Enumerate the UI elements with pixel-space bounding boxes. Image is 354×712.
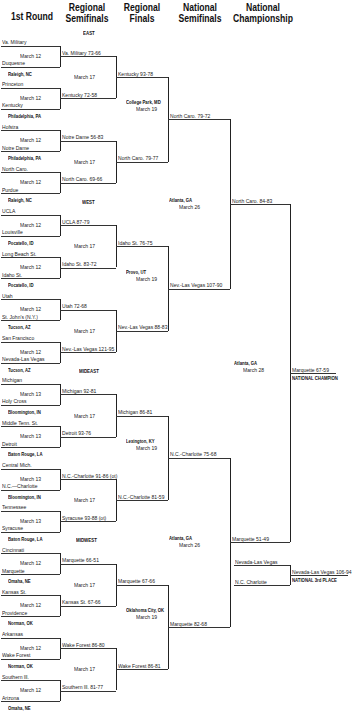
game-location: Bloomington, IN [8, 409, 41, 415]
bracket-line [290, 373, 336, 374]
game-date: March 19 [136, 106, 157, 112]
game-date: March 26 [179, 204, 200, 210]
game-location: Philadelphia, PA [8, 113, 41, 119]
bracket-line [60, 394, 116, 395]
bracket-line [116, 585, 168, 586]
regional-final-location: Lexington, KY [126, 438, 155, 444]
game-location: Omaha, NE [8, 705, 31, 711]
game-date: March 12 [20, 602, 41, 608]
bracket-line [116, 416, 168, 417]
game-location: Tucson, AZ [8, 367, 31, 373]
bracket-line [1, 257, 60, 258]
game-date: March 26 [179, 542, 200, 548]
game-date: March 12 [20, 264, 41, 270]
bracket-line [1, 616, 60, 617]
team-name: Notre Dame [2, 145, 29, 151]
team-name: Princeton [2, 81, 23, 87]
bracket-line [1, 426, 60, 427]
game-location: Omaha, NE [8, 578, 31, 584]
bracket-line [60, 648, 116, 649]
team-name: Nevada-Las Vegas [2, 356, 45, 362]
regional-final-result: Idaho St. 76-75 [118, 240, 152, 246]
bracket-line [60, 141, 116, 142]
header-regional-semifinals: Regional Semifinals [63, 2, 111, 24]
team-name: Southern Ill. [2, 674, 29, 680]
national-semifinal-location: Atlanta, GA [169, 197, 192, 203]
team-name: Holy Cross [2, 398, 27, 404]
bracket-line [1, 469, 60, 470]
game-location: Raleigh, NC [8, 197, 32, 203]
national-semifinal-result: North Caro. 79-72 [170, 113, 210, 119]
regional-final-result: North Caro. 79-77 [118, 155, 158, 161]
bracket-line [1, 109, 60, 110]
game-date: March 12 [20, 95, 41, 101]
bracket-line [116, 162, 168, 163]
team-name: Utah [2, 293, 13, 299]
game-date: March 17 [74, 74, 95, 80]
bracket-line [230, 542, 290, 543]
team-name: Wake Forest [2, 652, 30, 658]
bracket-line [1, 46, 60, 47]
bracket-line [60, 310, 116, 311]
bracket-line [60, 56, 116, 57]
bracket-line [1, 701, 60, 702]
game-date: March 12 [20, 179, 41, 185]
game-location: Norman, OK [8, 620, 33, 626]
team-name: Arizona [2, 695, 19, 701]
third-place-team: N.C. Charlotte [235, 579, 267, 585]
team-name: Duquesne [2, 60, 25, 66]
bracket-line [1, 236, 60, 237]
regional-semifinal-result: Detroit 93-76 [62, 430, 91, 436]
region-label-midwest: MIDWEST [76, 537, 97, 543]
team-name: Middle Tenn. St. [2, 420, 38, 426]
national-semifinal-result: N.C.-Charlotte 75-68 [170, 451, 216, 457]
bracket-line [60, 521, 116, 522]
regional-final-location: Provo, UT [126, 269, 146, 275]
bracket-line [116, 246, 168, 247]
bracket-line [1, 574, 60, 575]
bracket-line [234, 565, 290, 566]
regional-semifinal-result: North Caro. 69-66 [62, 176, 102, 182]
game-date: March 13 [20, 433, 41, 439]
game-location: Norman, OK [8, 663, 33, 669]
game-date: March 17 [74, 497, 95, 503]
team-name: Idaho St. [2, 272, 22, 278]
game-date: March 13 [20, 476, 41, 482]
championship-location: Atlanta, GA [234, 360, 257, 366]
team-name: Tennessee [2, 504, 26, 510]
game-date: March 19 [136, 614, 157, 620]
team-name: Kansas St. [2, 589, 26, 595]
regional-semifinal-result: Syracuse 93-88 (ot) [62, 515, 106, 521]
game-date: March 17 [74, 582, 95, 588]
game-date: March 17 [74, 413, 95, 419]
bracket-line [290, 575, 348, 576]
national-championship-finalist: Marquette 51-49 [232, 536, 269, 542]
bracket-line [60, 606, 116, 607]
team-name: Long Beach St. [2, 251, 36, 257]
game-location: Pocatello, ID [8, 282, 34, 288]
regional-semifinal-result: Southern Ill. 81-77 [62, 684, 103, 690]
team-name: UCLA [2, 208, 15, 214]
bracket-line [60, 183, 116, 184]
header-regional-finals: Regional Finals [122, 2, 161, 24]
bracket-line [1, 490, 60, 491]
bracket-line [1, 532, 60, 533]
regional-semifinal-result: Michigan 92-81 [62, 388, 96, 394]
regional-semifinal-result: Kentucky 72-58 [62, 92, 97, 98]
team-name: Louisville [2, 229, 23, 235]
bracket-line [1, 299, 60, 300]
team-name: Hofstra [2, 124, 18, 130]
regional-semifinal-result: Kansas St. 67-66 [62, 599, 101, 605]
regional-final-result: Nev.-Las Vegas 88-83 [118, 324, 167, 330]
regional-final-result: Marquette 67-66 [118, 578, 155, 584]
regional-semifinal-result: Notre Dame 56-83 [62, 134, 103, 140]
team-name: Michigan [2, 377, 22, 383]
bracket-line [1, 638, 60, 639]
bracket-line [1, 151, 60, 152]
regional-final-result: Michigan 86-81 [118, 409, 152, 415]
game-date: March 17 [74, 328, 95, 334]
team-name: Central Mich. [2, 462, 32, 468]
game-date: March 13 [20, 518, 41, 524]
bracket-line [1, 278, 60, 279]
national-semifinal-location: Atlanta, GA [169, 535, 192, 541]
